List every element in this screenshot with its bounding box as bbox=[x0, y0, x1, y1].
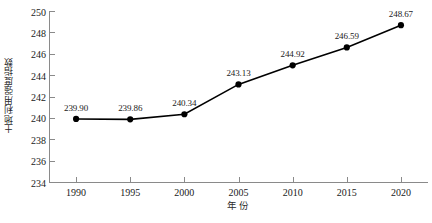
y-axis-title: 土地利用强度指数 bbox=[0, 0, 16, 190]
y-axis-tick-label: 244 bbox=[31, 70, 46, 81]
data-point-marker bbox=[73, 116, 79, 122]
data-point-marker bbox=[398, 22, 404, 28]
series-line-group bbox=[49, 11, 428, 183]
x-axis-tick-label: 1995 bbox=[120, 187, 140, 198]
data-point-marker bbox=[344, 44, 350, 50]
data-point-label: 248.67 bbox=[389, 9, 413, 19]
x-axis-tick-label: 2005 bbox=[229, 187, 249, 198]
data-point-label: 246.59 bbox=[335, 31, 359, 41]
data-point-label: 239.90 bbox=[64, 103, 88, 113]
y-axis-tick-label: 236 bbox=[31, 156, 46, 167]
data-point-label: 244.92 bbox=[281, 49, 305, 59]
x-axis-title: 年份 bbox=[49, 198, 428, 212]
data-point-marker bbox=[235, 81, 241, 87]
x-axis-tick-label: 2000 bbox=[174, 187, 194, 198]
data-point-label: 240.34 bbox=[172, 98, 196, 108]
x-axis-tick-label: 2010 bbox=[283, 187, 303, 198]
x-axis-tick-label: 2020 bbox=[391, 187, 411, 198]
data-point-label: 243.13 bbox=[226, 68, 250, 78]
chart-container: 土地利用强度指数 234236238240242244246248250 199… bbox=[0, 0, 432, 223]
y-axis-tick-label: 238 bbox=[31, 134, 46, 145]
y-axis-tick-label: 240 bbox=[31, 113, 46, 124]
x-axis-tick-label: 2015 bbox=[337, 187, 357, 198]
data-point-label: 239.86 bbox=[118, 103, 142, 113]
y-axis-tick-label: 248 bbox=[31, 27, 46, 38]
y-axis-tick-label: 246 bbox=[31, 49, 46, 60]
x-axis-tick-label: 1990 bbox=[66, 187, 86, 198]
plot-area: 234236238240242244246248250 199019952000… bbox=[49, 11, 428, 182]
y-axis-tick-label: 250 bbox=[31, 6, 46, 17]
y-axis-tick-label: 242 bbox=[31, 92, 46, 103]
data-point-marker bbox=[290, 62, 296, 68]
data-point-marker bbox=[127, 116, 133, 122]
data-point-marker bbox=[181, 111, 187, 117]
y-axis-tick-label: 234 bbox=[31, 177, 46, 188]
